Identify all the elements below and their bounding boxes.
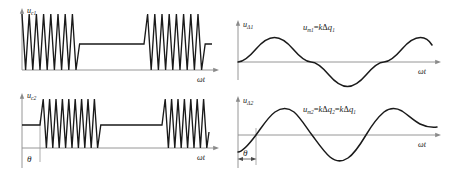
x-label-top-right: ωt [418, 67, 427, 76]
y-axis-arrow-icon [20, 93, 24, 99]
x-label-bottom-left: ωt [197, 153, 206, 162]
x-label-bottom-right: ωt [418, 140, 427, 149]
y-axis-arrow-icon [236, 20, 240, 26]
y-axis-arrow-icon [236, 96, 240, 102]
x-axis-arrow-icon [213, 68, 219, 72]
equation-bottom-right: um2=kΔq2=kΔq1 [303, 104, 356, 115]
x-axis-arrow-icon [435, 133, 441, 137]
y-label-top-left: uc1 [27, 6, 37, 16]
equation-top-right: um1=kΔq1 [303, 22, 335, 33]
waveform-carrier-2 [22, 99, 209, 148]
waveform-carrier-1 [22, 14, 212, 70]
x-axis-arrow-icon [435, 60, 441, 64]
panel-bottom-right: uΔ2 ωt θ um2=kΔq2=kΔq1 [236, 96, 441, 168]
y-label-bottom-right: uΔ2 [243, 96, 253, 106]
theta-label-bottom-right: θ [243, 148, 248, 158]
x-label-top-left: ωt [197, 75, 206, 84]
panel-top-right: uΔ1 ωt um1=kΔq1 [236, 20, 441, 87]
panel-top-left: uc1 ωt [20, 6, 219, 84]
theta-label-bottom-left: θ [27, 154, 32, 164]
waveform-figure: uc1 ωt uc2 θ ωt uΔ1 ωt um1=kΔq1 [0, 0, 457, 173]
y-axis-arrow-icon [20, 8, 24, 14]
y-label-top-right: uΔ1 [243, 20, 253, 30]
panel-bottom-left: uc2 θ ωt [20, 91, 219, 168]
x-axis-arrow-icon [213, 146, 219, 150]
y-label-bottom-left: uc2 [27, 91, 37, 101]
